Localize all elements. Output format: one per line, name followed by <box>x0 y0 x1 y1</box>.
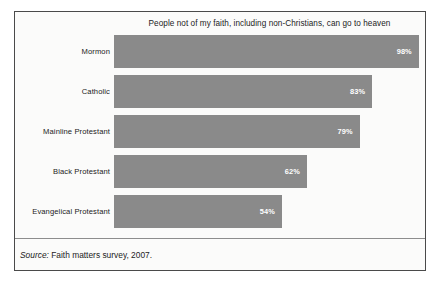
source-row: Source: Faith matters survey, 2007. <box>15 239 425 270</box>
bar-row: Mormon 98% <box>15 35 425 68</box>
bar-row: Mainline Protestant 79% <box>15 115 425 148</box>
bar-value-catholic: 83% <box>350 87 365 96</box>
chart-figure: People not of my faith, including non-Ch… <box>14 11 426 271</box>
bar-evangelical-protestant: 54% <box>114 195 282 228</box>
chart-title: People not of my faith, including non-Ch… <box>114 19 425 28</box>
category-label-evangelical-protestant: Evangelical Protestant <box>15 207 114 216</box>
bar-value-mormon: 98% <box>397 47 412 56</box>
bar-row: Catholic 83% <box>15 75 425 108</box>
source-value: Faith matters survey, 2007. <box>51 250 152 260</box>
bar-row: Evangelical Protestant 54% <box>15 195 425 228</box>
plot-area: Mormon 98% Catholic 83% Mainline Protest… <box>15 34 425 238</box>
bar-black-protestant: 62% <box>114 155 307 188</box>
chart-title-row: People not of my faith, including non-Ch… <box>15 12 425 34</box>
category-label-black-protestant: Black Protestant <box>15 167 114 176</box>
bar-track: 83% <box>114 75 425 108</box>
bar-value-evangelical-protestant: 54% <box>260 207 275 216</box>
bar-mainline-protestant: 79% <box>114 115 360 148</box>
category-label-mainline-protestant: Mainline Protestant <box>15 127 114 136</box>
category-label-catholic: Catholic <box>15 87 114 96</box>
bar-value-black-protestant: 62% <box>285 167 300 176</box>
bar-mormon: 98% <box>114 35 419 68</box>
bar-value-mainline-protestant: 79% <box>338 127 353 136</box>
source-prefix: Source: <box>20 250 49 260</box>
bar-row: Black Protestant 62% <box>15 155 425 188</box>
source-note: Source: Faith matters survey, 2007. <box>20 250 152 260</box>
category-label-mormon: Mormon <box>15 47 114 56</box>
bar-catholic: 83% <box>114 75 372 108</box>
bar-track: 79% <box>114 115 425 148</box>
bar-track: 62% <box>114 155 425 188</box>
bar-track: 98% <box>114 35 425 68</box>
bar-track: 54% <box>114 195 425 228</box>
